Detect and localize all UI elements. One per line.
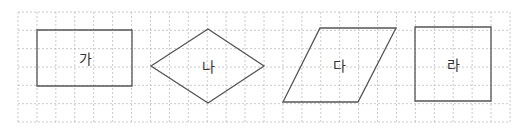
shape-label-da: 다 [333,55,346,75]
dotted-grid [18,12,510,122]
shape-label-ra: 라 [447,54,460,74]
shape-label-ga: 가 [79,48,92,68]
shape-label-na: 나 [202,56,215,76]
